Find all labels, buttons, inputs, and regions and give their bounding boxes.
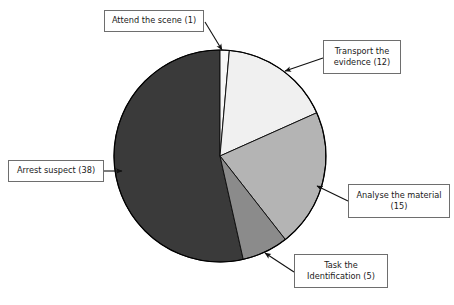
callout-label-transport-the-evidence: Transport the evidence (12) <box>334 46 391 69</box>
callout-task-the-identification[interactable]: Task the Identification (5) <box>294 254 388 288</box>
leader-line-transport <box>285 58 323 71</box>
leader-line-task <box>265 253 294 272</box>
callout-attend-the-scene[interactable]: Attend the scene (1) <box>104 10 204 32</box>
leader-line-attend <box>205 22 222 50</box>
callout-label-arrest-suspect: Arrest suspect (38) <box>17 165 95 177</box>
callout-label-attend-the-scene: Attend the scene (1) <box>112 15 196 27</box>
leader-line-analyse <box>317 186 348 201</box>
chart-canvas: Attend the scene (1) Transport the evide… <box>0 0 454 305</box>
callout-transport-the-evidence[interactable]: Transport the evidence (12) <box>323 40 401 74</box>
callout-arrest-suspect[interactable]: Arrest suspect (38) <box>8 160 104 182</box>
callout-analyse-the-material[interactable]: Analyse the material (15) <box>348 184 450 218</box>
callout-label-task-the-identification: Task the Identification (5) <box>307 260 375 283</box>
callout-label-analyse-the-material: Analyse the material (15) <box>356 190 441 213</box>
